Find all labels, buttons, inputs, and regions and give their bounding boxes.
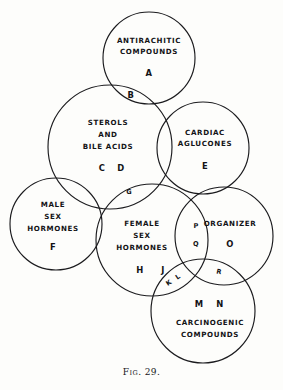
code-label-m: M <box>195 299 204 309</box>
code-label-d: D <box>117 163 124 173</box>
code-label-o: O <box>226 239 234 249</box>
code-label-a: A <box>146 68 153 78</box>
code-label-p-intersection: P <box>193 222 198 230</box>
code-label-n: N <box>216 299 223 309</box>
code-label-g-intersection: G <box>126 188 132 196</box>
code-label-j: J <box>160 265 165 275</box>
label-sterols-line2: AND <box>98 130 117 139</box>
code-label-h: H <box>136 265 143 275</box>
code-label-l-intersection: L <box>174 272 183 281</box>
label-male-line3: HORMONES <box>27 224 79 233</box>
code-label-c: C <box>99 163 106 173</box>
label-female-line1: FEMALE <box>124 219 160 228</box>
circle-female-sex-hormones <box>96 184 208 296</box>
label-male-line2: SEX <box>44 212 61 221</box>
circle-cardiac-aglucones <box>157 102 249 194</box>
figure-caption: FIG. 29. <box>0 367 283 377</box>
label-antirachitic-line2: COMPOUNDS <box>120 47 178 56</box>
circle-antirachitic-compounds <box>103 12 195 104</box>
figure-root: ANTIRACHITIC COMPOUNDS A STEROLS AND BIL… <box>0 0 283 390</box>
code-label-q-intersection: Q <box>193 240 199 248</box>
figure-caption-smallcaps: IG <box>129 369 138 377</box>
circle-carcinogenic-compounds <box>151 259 255 363</box>
code-label-f: F <box>50 242 56 252</box>
label-carcinogenic-line2: COMPOUNDS <box>181 330 239 339</box>
label-sterols-line1: STEROLS <box>88 118 128 127</box>
label-cardiac-line1: CARDIAC <box>185 128 225 137</box>
circle-organizer <box>175 187 273 285</box>
label-antirachitic-line1: ANTIRACHITIC <box>117 36 181 45</box>
label-organizer-line1: ORGANIZER <box>204 219 257 228</box>
label-male-line1: MALE <box>41 200 66 209</box>
label-cardiac-line2: AGLUCONES <box>178 139 232 148</box>
label-carcinogenic-line1: CARCINOGENIC <box>176 318 244 327</box>
code-label-k-intersection: K <box>164 278 173 288</box>
label-sterols-line3: BILE ACIDS <box>83 142 134 151</box>
code-label-e: E <box>202 161 208 171</box>
figure-caption-number: . 29. <box>138 367 160 377</box>
code-label-r-intersection: R <box>216 267 223 276</box>
label-female-line3: HORMONES <box>116 243 168 252</box>
venn-diagram-canvas: ANTIRACHITIC COMPOUNDS A STEROLS AND BIL… <box>0 0 283 390</box>
code-label-b-intersection: B <box>128 90 135 100</box>
label-female-line2: SEX <box>133 231 150 240</box>
